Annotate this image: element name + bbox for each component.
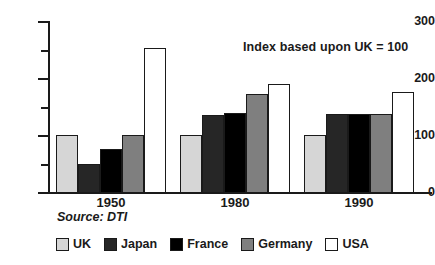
legend-item-usa: USA <box>325 238 368 251</box>
y-tick-100 <box>38 135 49 137</box>
bar-1980-france <box>224 113 246 193</box>
legend-item-france: France <box>170 238 228 251</box>
y-tick-200 <box>38 78 49 80</box>
bar-1950-uk <box>56 135 78 193</box>
legend-label-france: France <box>187 238 228 251</box>
bar-1980-usa <box>268 84 290 193</box>
bar-1950-japan <box>78 164 100 193</box>
bar-1950-france <box>100 149 122 193</box>
legend-swatch-uk <box>56 238 69 251</box>
x-axis-label-1980: 1980 <box>200 196 270 209</box>
legend-item-uk: UK <box>56 238 91 251</box>
bar-1980-germany <box>246 94 268 193</box>
bar-1980-japan <box>202 115 224 193</box>
y-tick-50 <box>41 164 49 166</box>
bar-1990-germany <box>370 114 392 193</box>
x-axis-label-1990: 1990 <box>324 196 394 209</box>
y-tick-150 <box>41 107 49 109</box>
legend-label-usa: USA <box>342 238 368 251</box>
chart-legend: UK Japan France Germany USA <box>56 238 382 251</box>
bar-1990-france <box>348 114 370 193</box>
bar-chart: 300 200 100 0 <box>0 0 435 265</box>
y-tick-250 <box>41 50 49 52</box>
legend-label-germany: Germany <box>258 238 312 251</box>
chart-annotation: Index based upon UK = 100 <box>243 40 408 54</box>
legend-swatch-usa <box>325 238 338 251</box>
bar-1990-usa <box>392 92 414 193</box>
bar-1980-uk <box>180 135 202 193</box>
bar-1990-japan <box>326 114 348 193</box>
legend-swatch-germany <box>241 238 254 251</box>
legend-label-japan: Japan <box>121 238 157 251</box>
bar-1950-usa <box>144 48 166 193</box>
legend-label-uk: UK <box>73 238 91 251</box>
y-tick-300 <box>38 21 49 23</box>
legend-swatch-japan <box>104 238 117 251</box>
bar-1950-germany <box>122 135 144 193</box>
legend-item-germany: Germany <box>241 238 312 251</box>
bar-1990-uk <box>304 135 326 193</box>
legend-item-japan: Japan <box>104 238 157 251</box>
legend-swatch-france <box>170 238 183 251</box>
x-axis-label-1950: 1950 <box>76 196 146 209</box>
source-note: Source: DTI <box>57 210 127 224</box>
